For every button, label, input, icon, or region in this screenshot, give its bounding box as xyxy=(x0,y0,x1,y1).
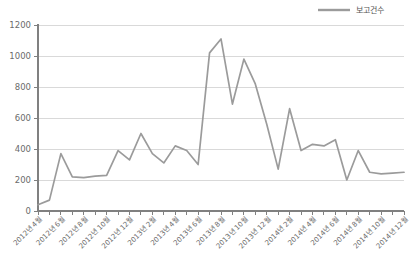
y-tick-label: 200 xyxy=(15,175,31,185)
y-tick-label: 0 xyxy=(26,206,31,216)
y-tick-label: 600 xyxy=(15,113,31,123)
y-tick-label: 400 xyxy=(15,144,31,154)
y-axis-labels: 020040060080010001200 xyxy=(9,20,31,216)
line-chart: 020040060080010001200 2012년 4월2012년 6월20… xyxy=(0,0,409,260)
chart-canvas: 020040060080010001200 2012년 4월2012년 6월20… xyxy=(0,0,409,260)
legend-label: 보고건수 xyxy=(356,5,384,15)
x-axis-labels: 2012년 4월2012년 6월2012년 8월2012년 10월2012년 1… xyxy=(11,215,409,250)
y-tick-label: 800 xyxy=(15,82,31,92)
y-tick-label: 1000 xyxy=(9,51,31,61)
chart-legend[interactable]: 보고건수 xyxy=(318,5,384,15)
y-tick-label: 1200 xyxy=(9,20,31,30)
grid-lines xyxy=(38,25,404,211)
